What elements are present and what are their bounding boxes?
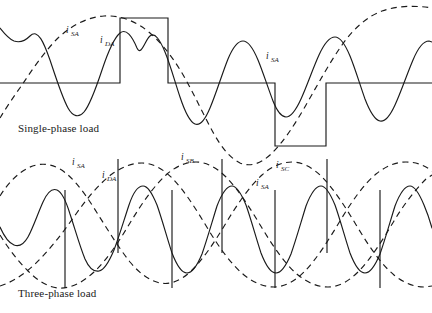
- label-isa2-bottom-sub: SA: [261, 183, 270, 191]
- label-isc-bottom-sub: SC: [281, 165, 290, 173]
- label-isc-bottom: i: [276, 160, 279, 170]
- label-isa-top-sub: SA: [71, 30, 80, 38]
- label-isb-bottom: i: [181, 152, 184, 162]
- label-ida-top-sub: DA: [104, 40, 115, 48]
- waveform-figure: i SA i DA i SA: [0, 0, 432, 313]
- curve-isa-dashed-top: [0, 6, 432, 164]
- panel-three-phase: i SA i DA i SB i SC i SA: [0, 152, 432, 288]
- label-isa2-top-sub: SA: [271, 56, 280, 64]
- panel-single-phase: i SA i DA i SA: [0, 6, 432, 164]
- caption-single-phase-load: Single-phase load: [18, 122, 99, 134]
- label-ida-bottom: i: [102, 170, 105, 180]
- label-isb-bottom-sub: SB: [186, 157, 195, 165]
- curve-load-current-top: [0, 28, 432, 124]
- label-isa2-bottom: i: [256, 178, 259, 188]
- caption-three-phase-load: Three-phase load: [18, 287, 96, 299]
- waveform-svg: i SA i DA i SA: [0, 0, 432, 313]
- label-ida-bottom-sub: DA: [106, 175, 117, 183]
- label-isa-bottom-sub: SA: [77, 162, 86, 170]
- label-isa-top: i: [66, 25, 69, 35]
- label-isa2-top: i: [266, 51, 269, 61]
- label-ida-top: i: [100, 35, 103, 45]
- label-isa-bottom: i: [72, 157, 75, 167]
